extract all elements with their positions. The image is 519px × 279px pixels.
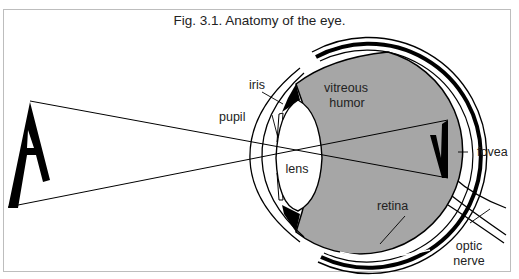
label-pupil: pupil bbox=[219, 110, 245, 124]
label-humor: humor bbox=[329, 96, 364, 110]
label-iris: iris bbox=[249, 78, 265, 92]
eye-diagram: iris pupil vitreous humor lens fovea ret… bbox=[0, 0, 519, 279]
label-retina: retina bbox=[377, 199, 408, 213]
label-nerve: nerve bbox=[453, 254, 484, 268]
label-optic: optic bbox=[456, 239, 482, 253]
label-fovea: fovea bbox=[477, 145, 508, 159]
object-letter-a bbox=[8, 102, 50, 208]
label-lens: lens bbox=[286, 162, 309, 176]
label-vitreous: vitreous bbox=[324, 81, 368, 95]
